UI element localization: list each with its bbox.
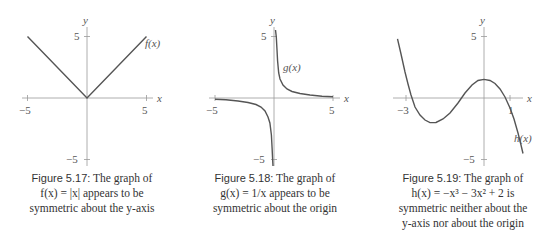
caption-text: The graph of	[276, 172, 335, 184]
caption-text: symmetric about the origin	[205, 201, 345, 216]
caption-figure-5-17: Figure 5.17: The graph of f(x) = |x| app…	[22, 171, 162, 216]
x-tick-label: 1	[508, 104, 514, 116]
y-axis-label: y	[479, 14, 485, 26]
x-tick-label: −5	[19, 104, 31, 116]
y-axis-label: y	[82, 14, 88, 26]
y-tick-label: 5	[471, 30, 477, 42]
y-tick-label: 5	[74, 30, 80, 42]
curve-label: g(x)	[283, 61, 301, 74]
x-axis-label: x	[156, 92, 162, 104]
x-axis-label: x	[526, 92, 532, 104]
y-axis-label: y	[269, 14, 275, 26]
caption-text: f(x) = |x| appears to be	[22, 186, 162, 201]
graph-h-cubic: y x −3 1 5 −5 h(x)	[393, 14, 532, 166]
x-axis-label: x	[343, 92, 349, 104]
caption-text: symmetric about the y-axis	[22, 201, 162, 216]
caption-text: The graph of	[464, 172, 523, 184]
curve-label: h(x)	[514, 132, 532, 145]
caption-text: The graph of	[93, 172, 152, 184]
caption-figure-5-18: Figure 5.18: The graph of g(x) = 1/x app…	[205, 171, 345, 216]
caption-text: g(x) = 1/x appears to be	[205, 186, 345, 201]
figure-number: Figure 5.17:	[32, 172, 91, 184]
figure-number: Figure 5.19:	[403, 172, 462, 184]
x-tick-label: 5	[142, 104, 148, 116]
y-tick-label: 5	[261, 30, 267, 42]
x-tick-label: −3	[397, 104, 409, 116]
graph-g-reciprocal: y x −5 5 5 −5 g(x)	[206, 14, 349, 166]
caption-text: y-axis nor about the origin	[393, 216, 533, 231]
y-tick-label: −5	[463, 153, 475, 165]
x-tick-label: −5	[206, 104, 218, 116]
caption-text: symmetric neither about the	[393, 201, 533, 216]
y-tick-label: −5	[253, 153, 265, 165]
figure-number: Figure 5.18:	[215, 172, 274, 184]
graph-f-abs: y x −5 5 5 −5 f(x)	[19, 14, 162, 166]
curve-h	[398, 39, 524, 154]
caption-figure-5-19: Figure 5.19: The graph of h(x) = −x³ − 3…	[393, 171, 533, 231]
curve-label: f(x)	[145, 37, 161, 50]
caption-text: h(x) = −x³ − 3x² + 2 is	[393, 186, 533, 201]
x-tick-label: 5	[329, 104, 335, 116]
y-tick-label: −5	[66, 153, 78, 165]
